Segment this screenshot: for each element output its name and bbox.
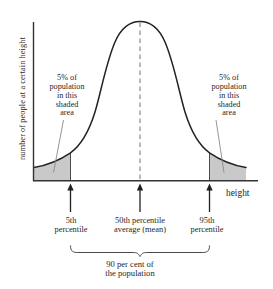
percentile-arrow-p50 <box>137 184 143 213</box>
population-span-brace <box>71 246 210 257</box>
left-tail-callout-label: 5% of population in this shaded area <box>36 74 98 118</box>
percentile-arrow-p5 <box>67 184 73 213</box>
x-axis-label: height <box>226 188 270 198</box>
normal-distribution-chart <box>0 0 273 289</box>
tick-label-50th-percentile: 50th percentile average (mean) <box>98 216 182 234</box>
percentile-arrow-p95 <box>206 184 212 213</box>
right-tail-callout-label: 5% of population in this shaded area <box>198 74 260 118</box>
figure-container: number of people at a certain height 5% … <box>0 0 273 289</box>
tick-label-5th-percentile: 5th percentile <box>44 216 98 234</box>
tick-label-95th-percentile: 95th percentile <box>180 216 234 234</box>
population-span-label: 90 per cent of the population <box>74 260 186 279</box>
y-axis-label: number of people at a certain height <box>18 14 27 184</box>
